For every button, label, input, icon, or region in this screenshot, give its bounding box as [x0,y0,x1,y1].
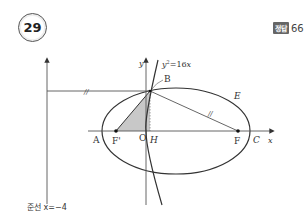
label-x-axis: x [268,136,273,145]
equal-mark-left: // [83,88,89,96]
figure-diagram: // // y x y2=16x B E A F' O H F C 준선 x=−… [0,0,304,224]
label-e: E [233,91,241,101]
segment-bf [150,91,238,131]
equal-mark-right: // [207,110,213,118]
point-b [149,90,152,93]
label-y-axis: y [138,59,144,68]
label-f: F [234,136,240,146]
label-a: A [92,135,100,145]
label-c: C [253,135,260,145]
label-b: B [164,74,171,84]
label-directrix: 준선 x=−4 [27,203,67,212]
point-f [236,129,240,133]
point-f-prime [114,129,118,133]
label-o: O [139,133,146,143]
label-h: H [149,135,158,145]
label-f-prime: F' [112,136,121,146]
label-parabola: y2=16x [161,59,192,69]
